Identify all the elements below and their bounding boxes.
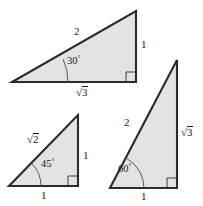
degree-symbol: ° (129, 162, 132, 170)
triangle-60-30-90-hypotenuse-label: 2 (124, 117, 130, 128)
triangles-vector-canvas (0, 0, 203, 206)
angle-value: 30 (67, 55, 78, 66)
angle-value: 60 (118, 163, 129, 174)
radicand: 2 (33, 133, 40, 145)
radicand: 3 (187, 126, 194, 138)
triangle-45-45-90-hypotenuse-label: √2 (27, 133, 39, 145)
triangle-45-45-90-horizontal-leg-label: 1 (41, 190, 47, 201)
triangle-30-60-90-outline (12, 11, 136, 82)
triangle-30-60-90-horizontal-leg-label: √3 (76, 86, 88, 98)
triangle-45-45-90-vertical-leg-label: 1 (83, 150, 89, 161)
triangle-30-60-90-angle-label: 30° (67, 56, 80, 67)
triangle-45-45-90-shape (9, 115, 78, 186)
degree-symbol: ° (78, 54, 81, 62)
triangle-30-60-90-shape (12, 11, 136, 82)
triangle-30-60-90-hypotenuse-label: 2 (74, 26, 80, 37)
triangle-45-45-90-outline (9, 115, 78, 186)
triangle-45-45-90-angle-label: 45° (41, 159, 54, 170)
radicand: 3 (82, 86, 89, 98)
triangle-60-30-90-angle-label: 60° (118, 164, 131, 175)
triangle-60-30-90-vertical-leg-label: √3 (181, 126, 193, 138)
angle-value: 45 (41, 158, 52, 169)
triangle-60-30-90-horizontal-leg-label: 1 (141, 191, 147, 202)
triangle-30-60-90-vertical-leg-label: 1 (141, 39, 147, 50)
degree-symbol: ° (52, 157, 55, 165)
special-right-triangles-figure: 2 1 √3 30° √2 1 1 45° 2 √3 1 60° (0, 0, 203, 206)
